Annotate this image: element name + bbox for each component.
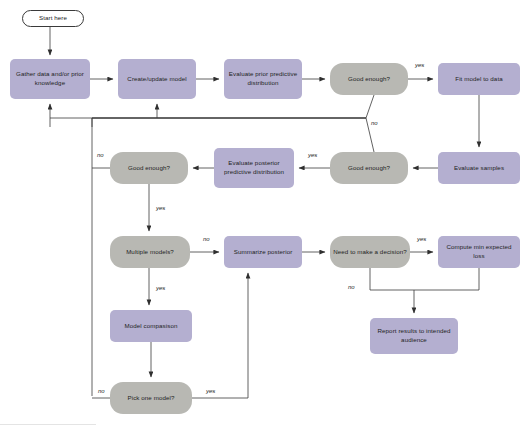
- node-multiple-models[interactable]: Multiple models?: [110, 236, 190, 268]
- edge-label-pick-one-model-yes: yes: [206, 388, 215, 394]
- node-need-to-make-a-decision[interactable]: Need to make a decision?: [330, 236, 410, 268]
- node-good-enough-prior[interactable]: Good enough?: [330, 63, 408, 95]
- node-fit-model-to-data[interactable]: Fit model to data: [438, 63, 520, 95]
- node-good-enough-samples[interactable]: Good enough?: [330, 152, 408, 184]
- edge-label-multiple-models-no: no: [203, 236, 210, 242]
- edge-label-good-enough-prior-no: no: [371, 120, 378, 126]
- edge-label-need-decision-yes: yes: [417, 236, 426, 242]
- node-good-enough-posterior[interactable]: Good enough?: [110, 152, 188, 184]
- edge-label-need-decision-no: no: [348, 284, 355, 290]
- node-create-update-model[interactable]: Create/update model: [118, 59, 196, 99]
- edge-label-good-enough-samples-yes: yes: [308, 152, 317, 158]
- edge-label-multiple-models-yes: yes: [156, 285, 165, 291]
- node-report-results[interactable]: Report results to intended audience: [370, 318, 458, 354]
- node-compute-min-expected-loss[interactable]: Compute min expected loss: [438, 236, 520, 268]
- edge-label-good-enough-posterior-yes: yes: [156, 205, 165, 211]
- edge-label-pick-one-model-no: no: [98, 388, 105, 394]
- node-evaluate-samples[interactable]: Evaluate samples: [438, 152, 520, 184]
- node-evaluate-posterior-predictive[interactable]: Evaluate posterior predictive distributi…: [214, 148, 294, 188]
- flowchart-canvas: Start here Gather data and/or prior know…: [0, 0, 531, 431]
- edge-label-good-enough-posterior-no: no: [97, 152, 104, 158]
- node-model-comparison[interactable]: Model compasison: [110, 310, 192, 342]
- node-summarize-posterior[interactable]: Summarize posterior: [224, 236, 302, 268]
- node-evaluate-prior-predictive[interactable]: Evaluate prior predictive distribution: [224, 59, 302, 99]
- node-pick-one-model[interactable]: Pick one model?: [110, 382, 192, 414]
- node-gather-data[interactable]: Gather data and/or prior knowledge: [10, 59, 90, 99]
- edge-label-good-enough-prior-yes: yes: [415, 62, 424, 68]
- node-start[interactable]: Start here: [22, 10, 84, 27]
